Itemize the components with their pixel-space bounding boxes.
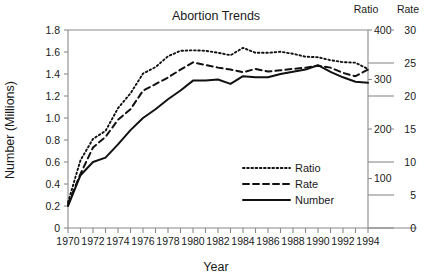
x-axis-tick-label: 1980	[181, 235, 205, 247]
ratio-axis-tick-label: 400	[374, 24, 392, 36]
x-axis-tick-label: 1990	[306, 235, 330, 247]
x-axis-tick-label: 1992	[331, 235, 355, 247]
left-axis-tick-label: 0	[54, 222, 60, 234]
rate-axis-tick-label: 25	[404, 57, 416, 69]
ratio-axis-tick-label: 300	[374, 73, 392, 85]
x-axis-tick-label: 1978	[156, 235, 180, 247]
x-axis-tick-label: 1972	[81, 235, 105, 247]
legend-label-rate: Rate	[295, 178, 318, 190]
x-axis-tick-label: 1982	[206, 235, 230, 247]
left-axis-tick-label: 0.4	[45, 178, 60, 190]
x-axis-label: Year	[203, 260, 228, 274]
chart-title: Abortion Trends	[172, 9, 260, 23]
rate-axis-tick-label: 20	[404, 90, 416, 102]
rate-axis-header: Rate	[397, 3, 419, 15]
ratio-axis-tick-label: 100	[374, 172, 392, 184]
rate-axis-tick-label: 10	[404, 156, 416, 168]
left-axis-tick-label: 1.6	[45, 46, 60, 58]
x-axis-tick-label: 1994	[356, 235, 380, 247]
legend-label-ratio: Ratio	[295, 162, 321, 174]
rate-axis-tick-label: 5	[410, 189, 416, 201]
y-axis-label: Number (Millions)	[3, 81, 17, 179]
left-axis-tick-label: 1.2	[45, 90, 60, 102]
left-axis-tick-label: 1.0	[45, 112, 60, 124]
left-axis-tick-label: 0.8	[45, 134, 60, 146]
x-axis-tick-label: 1988	[281, 235, 305, 247]
x-axis-tick-label: 1984	[231, 235, 255, 247]
rate-axis-tick-label: 0	[410, 222, 416, 234]
ratio-axis-header: Ratio	[354, 3, 379, 15]
chart-container: Abortion Trends Ratio Rate Number (Milli…	[0, 0, 432, 275]
legend-label-number: Number	[295, 194, 334, 206]
rate-axis-tick-label: 30	[404, 24, 416, 36]
x-axis-tick-label: 1970	[56, 235, 80, 247]
x-axis-tick-label: 1976	[131, 235, 155, 247]
left-axis-tick-label: 0.2	[45, 200, 60, 212]
abortion-trends-chart: Abortion Trends Ratio Rate Number (Milli…	[0, 0, 432, 275]
left-axis-tick-label: 1.4	[45, 68, 60, 80]
x-axis-tick-label: 1986	[256, 235, 280, 247]
ratio-axis-tick-label: 200	[374, 123, 392, 135]
x-axis-tick-label: 1974	[106, 235, 130, 247]
left-axis-tick-label: 0.6	[45, 156, 60, 168]
chart-background	[0, 0, 432, 275]
left-axis-tick-label: 1.8	[45, 24, 60, 36]
rate-axis-tick-label: 15	[404, 123, 416, 135]
